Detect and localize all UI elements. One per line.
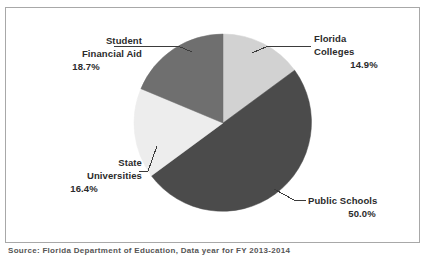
callout-label-line1: Student bbox=[30, 34, 142, 47]
callout-percent: 18.7% bbox=[30, 60, 142, 73]
callout-percent: 16.4% bbox=[26, 182, 142, 195]
callout-label-line1: Florida bbox=[314, 32, 414, 45]
callout-label-line2: Financial Aid bbox=[30, 47, 142, 60]
chart-frame: Student Financial Aid 18.7% Florida Coll… bbox=[5, 7, 420, 243]
callout-percent: 14.9% bbox=[314, 58, 414, 71]
callout-florida-colleges: Florida Colleges 14.9% bbox=[314, 32, 414, 71]
callout-state-universities: State Universities 16.4% bbox=[26, 156, 142, 195]
callout-label-line2: Universities bbox=[26, 169, 142, 182]
callout-public-schools: Public Schools 50.0% bbox=[308, 194, 416, 220]
callout-label-line1: Public Schools bbox=[308, 194, 416, 207]
callout-student-financial-aid: Student Financial Aid 18.7% bbox=[30, 34, 142, 73]
callout-percent: 50.0% bbox=[308, 207, 416, 220]
callout-label-line1: State bbox=[26, 156, 142, 169]
callout-label-line2: Colleges bbox=[314, 45, 414, 58]
source-note: Source: Florida Department of Education,… bbox=[8, 246, 290, 255]
